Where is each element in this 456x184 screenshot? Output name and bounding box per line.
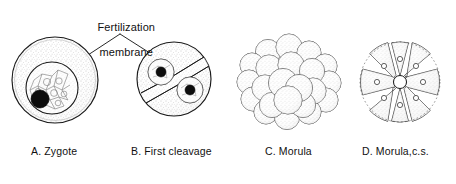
cs-central-cavity xyxy=(394,76,407,89)
cs-nucleus-7 xyxy=(397,56,402,61)
cleavage-nucleus-lower-right xyxy=(177,77,203,103)
zygote-nucleus xyxy=(31,90,49,108)
caption-panel-c: C. Morula xyxy=(265,145,312,157)
cs-nucleus-8 xyxy=(413,63,418,68)
callout-line-1: Fertilization xyxy=(98,21,156,33)
cs-nucleus-1 xyxy=(420,79,425,84)
callout-line-2: membrane xyxy=(100,46,153,58)
panel-d-morula-cross-section xyxy=(360,42,440,122)
caption-panel-a: A. Zygote xyxy=(31,145,77,157)
cs-nucleus-5 xyxy=(374,79,379,84)
cs-nucleus-3 xyxy=(397,102,402,107)
caption-panel-b: B. First cleavage xyxy=(131,145,212,157)
caption-panel-d: D. Morula,c.s. xyxy=(362,145,429,157)
nucleus-dot-lower-right xyxy=(185,85,195,95)
panel-c-morula xyxy=(237,34,341,130)
cs-nucleus-2 xyxy=(413,95,418,100)
cs-nucleus-6 xyxy=(381,63,386,68)
cs-nucleus-4 xyxy=(381,95,386,100)
figure-embryo-cleavage-stages: Fertilization membrane A. Zygote B. Firs… xyxy=(0,0,456,184)
callout-fertilization-membrane: Fertilization membrane xyxy=(60,8,180,71)
